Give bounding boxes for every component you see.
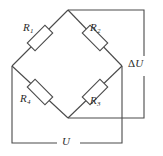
delta-u-lower-lead	[68, 76, 144, 118]
resistor-r3-label: R3	[90, 95, 100, 106]
resistor-r4	[27, 79, 52, 104]
u-right-lead	[80, 66, 122, 143]
delta-u-label: ΔU	[128, 58, 143, 69]
resistor-r2-label: R2	[90, 22, 100, 33]
resistor-r4-label: R4	[20, 93, 30, 104]
u-left-lead	[12, 66, 57, 143]
wheatstone-bridge-figure: R1 R2 R3 R4 ΔU U	[0, 0, 163, 156]
u-label: U	[62, 136, 70, 147]
resistor-r4-body	[27, 79, 52, 104]
resistor-r1-label: R1	[23, 22, 33, 33]
